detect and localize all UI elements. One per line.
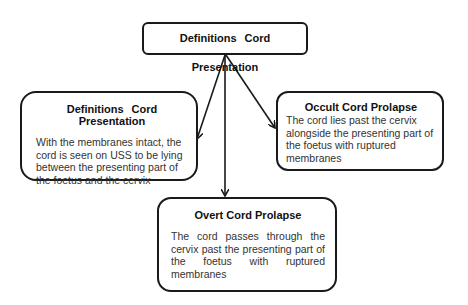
node-title: Definitions Cord Presentation: [36, 103, 188, 127]
root-node-title: Definitions Cord Presentation: [144, 24, 306, 82]
node-description: The cord passes through the cervix past …: [171, 230, 325, 280]
node-title: Occult Cord Prolapse: [286, 101, 436, 113]
node-title: Overt Cord Prolapse: [171, 209, 325, 221]
node-cord-presentation: Definitions Cord Presentation With the m…: [20, 91, 198, 181]
node-description: With the membranes intact, the cord is s…: [36, 136, 188, 186]
node-overt-cord-prolapse: Overt Cord Prolapse The cord passes thro…: [157, 197, 337, 292]
root-node-definitions-cord-presentation: Definitions Cord Presentation: [142, 22, 308, 55]
node-occult-cord-prolapse: Occult Cord Prolapse The cord lies past …: [276, 91, 444, 171]
node-description: The cord lies past the cervix alongside …: [286, 114, 436, 164]
